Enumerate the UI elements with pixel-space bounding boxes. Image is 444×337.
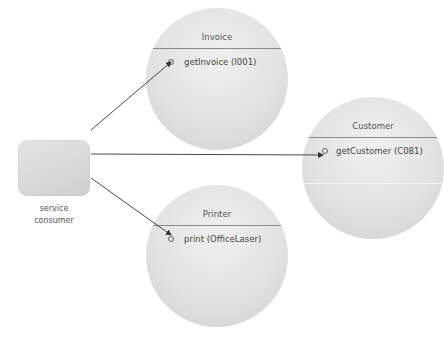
link-to-printer[interactable] [91,178,171,235]
link-to-customer[interactable] [91,154,323,155]
link-to-invoice[interactable] [91,62,171,130]
connector-layer [0,0,444,337]
